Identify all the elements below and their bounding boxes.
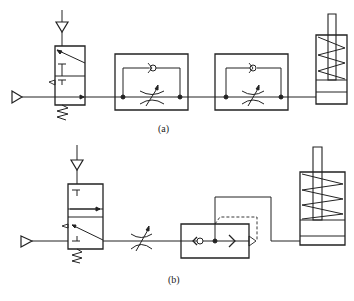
spring-icon (72, 249, 82, 263)
throttle-icon (140, 91, 164, 95)
cylinder-b (300, 147, 345, 245)
label-a: (a) (158, 123, 169, 135)
pneumatic-circuit-diagram: (a) (0, 0, 354, 301)
supply-triangle-icon (56, 22, 68, 32)
subfigure-b: (b) (21, 145, 345, 286)
spring-icon (318, 37, 345, 79)
throttle-icon (242, 91, 264, 95)
supply-port-a (56, 10, 68, 46)
exhaust-triangle-icon (249, 236, 256, 246)
pipe-to-cylinder (215, 197, 300, 241)
exhaust-triangle-icon (12, 91, 22, 103)
quick-exhaust-valve-b (181, 197, 257, 258)
supply-triangle-icon (71, 160, 83, 170)
cylinder-a (316, 14, 347, 104)
flow-control-valve-1 (115, 54, 188, 110)
directional-valve-a (49, 46, 85, 120)
subfigure-a: (a) (12, 10, 347, 135)
throttle-valve-b (131, 226, 152, 251)
flow-control-valve-2 (215, 54, 288, 110)
exhaust-triangle-icon (21, 236, 32, 247)
directional-valve-b (62, 184, 103, 263)
throttle-icon (131, 234, 152, 238)
check-valve-ball-icon (150, 65, 156, 71)
spring-icon (57, 105, 68, 120)
label-b: (b) (168, 274, 180, 286)
supply-port-b (71, 145, 83, 184)
